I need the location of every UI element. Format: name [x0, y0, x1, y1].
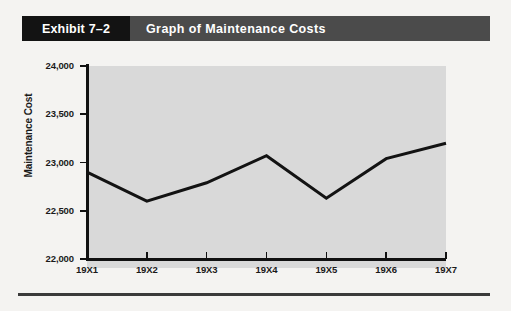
maintenance-cost-line [87, 143, 446, 201]
line-chart: Maintenance Cost 22,00022,50023,00023,50… [0, 0, 511, 300]
exhibit-figure: Exhibit 7–2 Graph of Maintenance Costs M… [0, 0, 511, 311]
figure-bottom-rule [18, 293, 490, 296]
data-line-group [0, 0, 511, 300]
